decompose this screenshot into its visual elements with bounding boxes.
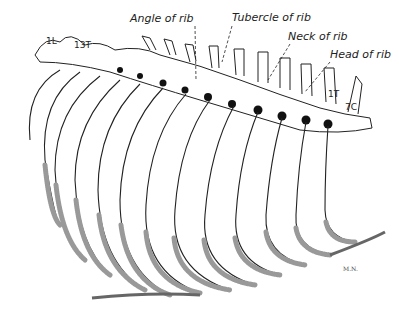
label-7C: 7C xyxy=(345,102,357,112)
label-tubercle-of-rib: Tubercle of rib xyxy=(232,11,311,24)
ribcage-illustration: Angle of rib Tubercle of rib Neck of rib… xyxy=(0,0,399,310)
label-13T: 13T xyxy=(74,40,91,50)
label-neck-of-rib: Neck of rib xyxy=(288,30,348,43)
ribcage-drawing: Angle of rib Tubercle of rib Neck of rib… xyxy=(0,0,399,310)
label-1T: 1T xyxy=(328,89,340,99)
artist-signature: M.N. xyxy=(343,265,358,272)
label-angle-of-rib: Angle of rib xyxy=(129,12,193,25)
costal-cartilages xyxy=(45,165,385,298)
label-head-of-rib: Head of rib xyxy=(330,48,391,61)
label-1L: 1L xyxy=(46,36,57,46)
vertebral-column xyxy=(35,36,372,132)
